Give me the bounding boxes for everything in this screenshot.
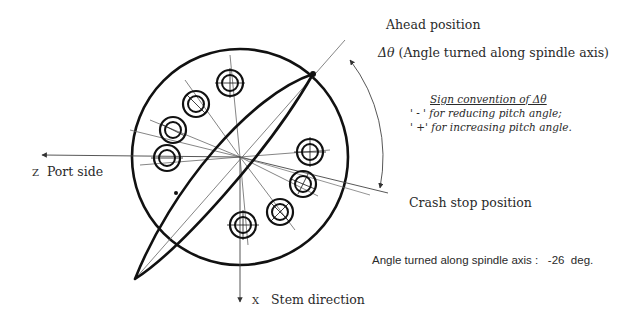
delta-theta-description: (Angle turned along spindle axis): [399, 45, 609, 60]
bolt: [160, 117, 186, 143]
bolt: [227, 210, 259, 240]
bolt: [267, 199, 293, 225]
z-axis-label: Z Port side: [32, 164, 103, 179]
angle-readout-value: -26: [548, 254, 565, 266]
delta-theta-symbol: Δθ: [378, 45, 395, 60]
angle-readout-unit: deg.: [571, 254, 593, 266]
crash-stop-position-label: Crash stop position: [409, 195, 532, 210]
x-axis-letter: X: [252, 295, 259, 306]
x-axis-description: Stem direction: [271, 292, 365, 307]
delta-theta-label: Δθ (Angle turned along spindle axis): [378, 45, 609, 60]
angle-readout-label: Angle turned along spindle axis :: [372, 254, 538, 266]
bolt: [294, 137, 326, 167]
x-axis-label: X Stem direction: [252, 292, 365, 307]
bolt: [151, 145, 183, 171]
z-axis-description: Port side: [47, 164, 103, 179]
sign-convention-title: Sign convention of Δθ: [430, 93, 547, 105]
angle-readout: Angle turned along spindle axis : -26 de…: [372, 254, 593, 266]
ahead-position-label: Ahead position: [386, 17, 480, 32]
sign-convention-minus: ' - ' for reducing pitch angle;: [410, 107, 562, 119]
bolt: [215, 68, 245, 98]
sign-convention-plus: ' +' for increasing pitch angle.: [410, 121, 572, 133]
delta-theta-arc: [350, 60, 383, 188]
crash-stop-line: [240, 157, 388, 193]
z-axis-letter: Z: [32, 167, 39, 178]
